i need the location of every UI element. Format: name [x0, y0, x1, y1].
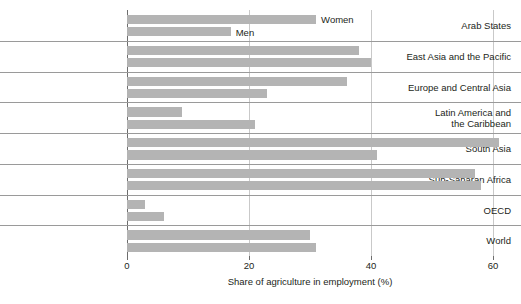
row-separator — [0, 226, 127, 227]
bar-wrapper: Men — [127, 27, 521, 36]
row-bars: WomenMen — [127, 10, 521, 41]
bar-women — [127, 107, 182, 116]
chart-row: OECD — [0, 195, 521, 226]
bar-wrapper — [127, 212, 521, 221]
row-bars — [127, 42, 521, 72]
bar-men — [127, 243, 316, 252]
x-tick-label: 40 — [366, 260, 377, 271]
bar-wrapper — [127, 46, 521, 55]
bar-women — [127, 77, 347, 86]
row-bars — [127, 196, 521, 226]
x-tick-label: 0 — [124, 260, 129, 271]
chart-row: Arab StatesWomenMen — [0, 10, 521, 41]
row-bars — [127, 103, 521, 133]
row-separator — [0, 103, 127, 104]
bar-women — [127, 230, 310, 239]
bar-wrapper — [127, 107, 521, 116]
bar-men — [127, 181, 481, 190]
bar-wrapper — [127, 58, 521, 67]
bar-men — [127, 120, 255, 129]
row-bars — [127, 73, 521, 103]
bar-wrapper — [127, 89, 521, 98]
bar-wrapper — [127, 120, 521, 129]
chart-row: East Asia and the Pacific — [0, 41, 521, 72]
chart-row: South Asia — [0, 133, 521, 164]
row-separator — [0, 134, 127, 135]
bar-wrapper — [127, 150, 521, 159]
bar-men — [127, 27, 231, 36]
chart-row: Europe and Central Asia — [0, 72, 521, 103]
row-bars — [127, 134, 521, 164]
x-axis: Share of agriculture in employment (%) 0… — [0, 256, 521, 304]
bar-women — [127, 15, 316, 24]
bar-men — [127, 89, 267, 98]
bar-women — [127, 138, 499, 147]
bar-women — [127, 46, 359, 55]
x-tick-label: 20 — [244, 260, 255, 271]
row-separator — [0, 73, 127, 74]
row-separator — [0, 196, 127, 197]
bar-wrapper — [127, 169, 521, 178]
bar-wrapper — [127, 243, 521, 252]
bar-men — [127, 58, 371, 67]
row-separator — [0, 42, 127, 43]
bar-women — [127, 200, 145, 209]
bar-wrapper — [127, 200, 521, 209]
bar-chart: Arab StatesWomenMenEast Asia and the Pac… — [0, 0, 521, 304]
x-axis-title: Share of agriculture in employment (%) — [127, 276, 493, 287]
bar-wrapper — [127, 77, 521, 86]
x-tick-label: 60 — [488, 260, 499, 271]
chart-rows: Arab StatesWomenMenEast Asia and the Pac… — [0, 10, 521, 256]
row-bars — [127, 226, 521, 256]
series-label-men: Men — [231, 26, 254, 37]
row-separator — [0, 165, 127, 166]
bar-wrapper — [127, 138, 521, 147]
bar-men — [127, 150, 377, 159]
chart-row: Sub-Saharan Africa — [0, 164, 521, 195]
bar-wrapper — [127, 230, 521, 239]
series-label-women: Women — [316, 14, 354, 25]
bar-women — [127, 169, 475, 178]
chart-row: Latin America andthe Caribbean — [0, 102, 521, 133]
row-bars — [127, 165, 521, 195]
bar-wrapper: Women — [127, 15, 521, 24]
bar-wrapper — [127, 181, 521, 190]
chart-row: World — [0, 225, 521, 256]
bar-men — [127, 212, 164, 221]
